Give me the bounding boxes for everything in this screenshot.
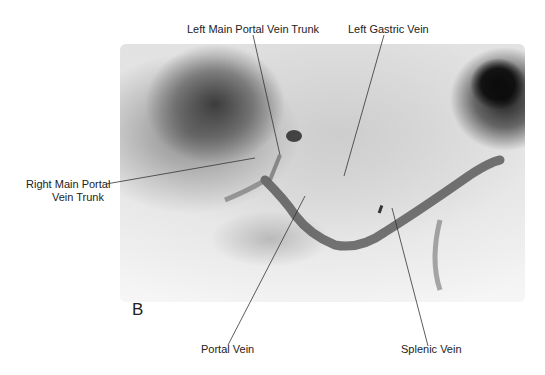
label-portal-vein: Portal Vein [201,343,254,356]
panel-letter: B [132,300,143,320]
label-splenic-vein: Splenic Vein [401,343,462,356]
leader-lines [106,35,428,346]
label-left-gastric-vein: Left Gastric Vein [348,23,429,36]
label-right-main-portal-line1: Right Main Portal [26,178,104,191]
label-left-main-portal-vein-trunk: Left Main Portal Vein Trunk [187,23,319,36]
label-right-main-portal-vein-trunk: Right Main Portal Vein Trunk [26,178,104,204]
label-right-main-portal-line2: Vein Trunk [26,191,104,204]
